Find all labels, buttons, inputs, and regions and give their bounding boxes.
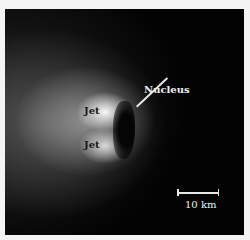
nucleus-shape [113,101,135,159]
jet-label-upper: Jet [84,105,100,116]
scale-bar [177,192,219,194]
comet-image: Jet Jet Nucleus 10 km [5,9,244,235]
scale-bar-label: 10 km [185,199,216,210]
jet-label-lower: Jet [84,139,100,150]
